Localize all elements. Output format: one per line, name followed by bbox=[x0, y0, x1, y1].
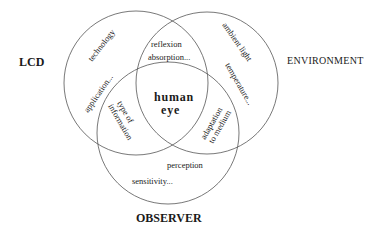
environment-region-temperature: temperature... bbox=[223, 61, 255, 107]
venn-diagram: LCD ENVIRONMENT OBSERVER technology appl… bbox=[0, 0, 377, 229]
observer-region-perception: perception bbox=[167, 160, 204, 170]
overlap-lcd-env-reflexion: reflexion bbox=[151, 39, 182, 49]
environment-region-ambient-light: ambient light bbox=[220, 20, 254, 63]
environment-label: ENVIRONMENT bbox=[287, 55, 364, 66]
observer-label: OBSERVER bbox=[136, 211, 202, 225]
lcd-region-technology: technology bbox=[86, 27, 118, 64]
center-human: human bbox=[154, 90, 194, 104]
center-eye: eye bbox=[161, 103, 180, 117]
observer-region-sensitivity: sensitivity... bbox=[132, 176, 173, 186]
lcd-label: LCD bbox=[19, 55, 45, 69]
overlap-lcd-env-absorption: absorption... bbox=[148, 52, 190, 62]
